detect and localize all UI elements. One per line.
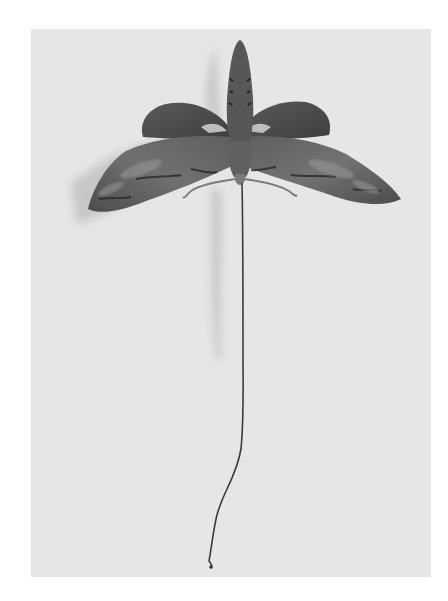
moth-photograph: Grayscale photograph of a pinned hawk mo…: [31, 29, 431, 577]
moth-illustration: [31, 29, 431, 577]
right-hindwing: [241, 101, 330, 139]
head: [235, 174, 245, 185]
thorax: [229, 141, 251, 177]
